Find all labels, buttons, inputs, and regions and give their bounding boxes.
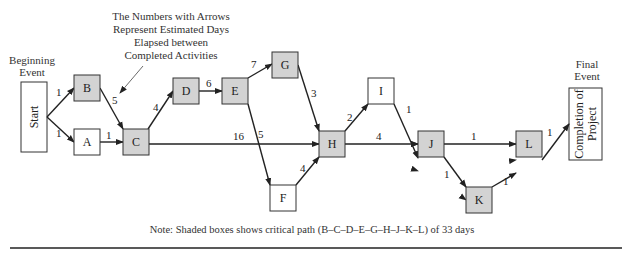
node-h: H (319, 131, 345, 157)
node-d: D (173, 78, 199, 104)
node-l: L (516, 131, 542, 157)
svg-text:16: 16 (233, 130, 245, 142)
svg-text:I: I (379, 84, 383, 98)
svg-text:C: C (132, 135, 140, 149)
node-a: A (74, 129, 100, 155)
svg-text:Event: Event (19, 66, 45, 78)
svg-text:F: F (280, 191, 287, 205)
svg-text:G: G (281, 58, 290, 72)
svg-text:D: D (182, 84, 191, 98)
svg-text:E: E (231, 84, 238, 98)
edge-c-d (148, 91, 173, 129)
final-event-label: Final Event (574, 58, 600, 82)
node-i: I (368, 78, 394, 104)
edge-labels: 1 1 5 1 4 6 7 5 16 3 4 2 4 1 1 1 1 1 (56, 58, 553, 187)
edge-h-j (345, 144, 418, 171)
svg-text:4: 4 (376, 130, 382, 142)
edge-j-l (444, 160, 516, 171)
node-g: G (272, 52, 298, 78)
node-f: F (270, 185, 296, 211)
svg-text:Beginning: Beginning (9, 54, 55, 66)
svg-text:1: 1 (444, 168, 450, 180)
annotation-pointer-arrow (120, 66, 143, 93)
svg-text:J: J (429, 137, 434, 151)
svg-text:K: K (475, 193, 484, 207)
svg-text:1: 1 (471, 130, 477, 142)
completion-node-label-line1: Completion of (572, 89, 586, 159)
node-c: C (123, 129, 149, 155)
critical-path-note: Note: Shaded boxes shows critical path (… (150, 224, 475, 236)
svg-text:Elapsed between: Elapsed between (134, 36, 209, 48)
svg-text:Represent Estimated Days: Represent Estimated Days (113, 23, 229, 35)
node-j: J (418, 131, 444, 157)
node-e: E (222, 78, 248, 104)
svg-text:5: 5 (258, 128, 264, 140)
svg-text:A: A (83, 135, 92, 149)
svg-text:3: 3 (311, 87, 317, 99)
svg-text:7: 7 (251, 58, 257, 70)
start-node-label: Start (27, 105, 41, 128)
svg-text:B: B (83, 81, 91, 95)
svg-text:Final: Final (576, 58, 599, 70)
svg-text:2: 2 (347, 111, 353, 123)
svg-text:L: L (525, 137, 532, 151)
svg-text:4: 4 (300, 162, 306, 174)
svg-text:4: 4 (153, 101, 159, 113)
svg-text:1: 1 (106, 129, 112, 141)
node-k: K (466, 187, 492, 213)
svg-text:1: 1 (56, 86, 62, 98)
svg-text:1: 1 (547, 126, 553, 138)
beginning-event-label: Beginning Event (9, 54, 55, 78)
pert-network-diagram: The Numbers with Arrows Represent Estima… (0, 0, 625, 255)
node-b: B (74, 75, 100, 101)
svg-text:The Numbers with Arrows: The Numbers with Arrows (112, 10, 230, 22)
svg-text:1: 1 (503, 175, 509, 187)
annotation-text: The Numbers with Arrows Represent Estima… (112, 10, 230, 61)
edge-j-k-placeholder (444, 184, 466, 200)
svg-text:5: 5 (112, 94, 118, 106)
svg-text:Event: Event (574, 70, 600, 82)
completion-node-label-line2: Project (585, 106, 599, 141)
svg-text:H: H (328, 137, 337, 151)
svg-text:6: 6 (206, 77, 212, 89)
svg-text:1: 1 (406, 103, 412, 115)
svg-text:Completed Activities: Completed Activities (124, 49, 217, 61)
svg-text:1: 1 (56, 127, 62, 139)
